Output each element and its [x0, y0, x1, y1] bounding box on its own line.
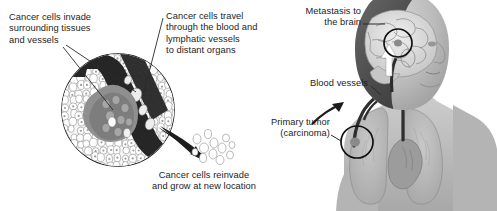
label-primary-tumor: Primary tumor (carcinoma)	[240, 117, 330, 140]
label-cancer-cells-invade: Cancer cells invade surrounding tissues …	[9, 12, 91, 46]
primary-tumor-lesion	[350, 138, 360, 147]
label-cancer-cells-travel: Cancer cells travel through the blood an…	[166, 11, 258, 57]
metastasis-lesion	[394, 40, 402, 47]
label-metastasis-to-brain: Metastasis to the brain	[287, 6, 361, 29]
label-cancer-cells-reinvade: Cancer cells reinvade and grow at new lo…	[128, 170, 280, 193]
label-blood-vessels: Blood vessels	[296, 78, 368, 89]
